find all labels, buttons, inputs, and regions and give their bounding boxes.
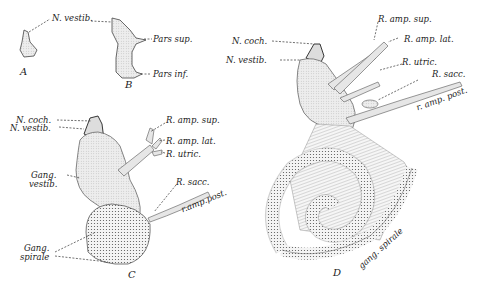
label-r-amp-sup-c: R. amp. sup. [166, 116, 220, 125]
caption-d: D [333, 268, 341, 278]
label-r-amp-lat-c: R. amp. lat. [166, 137, 216, 146]
caption-a: A [20, 67, 27, 77]
caption-b: B [125, 80, 132, 90]
label-gang-spirale-2: spirale [20, 253, 49, 262]
panel-b-ganglion [112, 18, 146, 78]
label-n-coch-d: N. coch. [232, 37, 267, 46]
label-r-sacc-d: R. sacc. [432, 70, 465, 79]
label-r-utric-c: R. utric. [166, 150, 201, 159]
label-pars-inf: Pars inf. [153, 70, 188, 79]
label-n-vestib-c: N. vestib. [10, 124, 51, 133]
label-n-vestib-d: N. vestib. [226, 56, 267, 65]
label-r-amp-lat-d: R. amp. lat. [404, 35, 454, 44]
label-pars-sup: Pars sup. [153, 35, 193, 44]
label-n-vestib-ab: N. vestib. [52, 14, 93, 23]
panel-a-ganglion [20, 30, 37, 57]
label-gang-vestib-2: vestib. [29, 180, 57, 189]
caption-c: C [128, 270, 136, 280]
label-r-sacc-c: R. sacc. [176, 178, 209, 187]
anatomy-figure: N. vestib. Pars sup. Pars inf. A B N. co… [0, 0, 481, 287]
label-r-amp-sup-d: R. amp. sup. [378, 15, 432, 24]
label-r-utric-d: R. utric. [402, 58, 437, 67]
